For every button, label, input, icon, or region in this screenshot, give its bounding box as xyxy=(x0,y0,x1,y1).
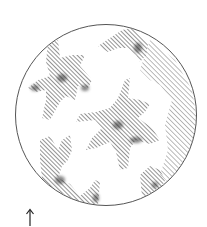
crystal-aggregates xyxy=(28,28,197,210)
orientation-arrow-icon xyxy=(27,210,34,227)
right-edge-hatching xyxy=(140,40,197,185)
microscope-field-figure xyxy=(0,0,207,226)
